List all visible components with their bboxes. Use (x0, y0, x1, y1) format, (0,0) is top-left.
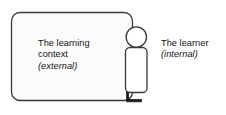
context-label-line-2: context (38, 49, 90, 60)
learner-label-line-2: (internal) (161, 49, 209, 60)
learner-label: The learner (internal) (161, 38, 209, 61)
learning-context-label: The learning context (external) (38, 38, 90, 72)
head-shape (126, 27, 146, 47)
diagram-canvas: The learning context (external) The lear… (0, 0, 226, 115)
context-label-line-3: (external) (38, 61, 90, 72)
context-label-line-1: The learning (38, 38, 90, 49)
learner-label-line-1: The learner (161, 38, 209, 49)
body-shape (126, 48, 148, 93)
